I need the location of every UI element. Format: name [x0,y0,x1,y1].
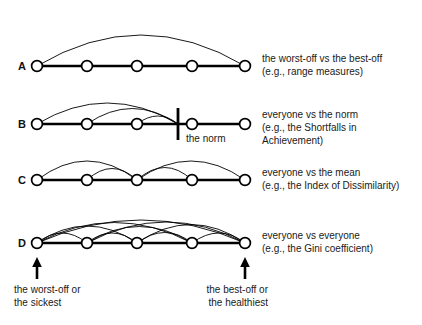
node-c-3-mean [132,175,143,186]
up-arrow-icon-left [32,257,42,267]
node-b-2 [82,119,93,130]
row-b: B the norm everyone vs the [18,103,358,146]
row-a-example-label: (e.g., range measures) [262,66,363,77]
arc-c-2-mean [87,169,137,181]
row-d-letter: D [18,237,26,249]
row-b-approach-label: everyone vs the norm [262,109,358,120]
node-b-3 [132,119,143,130]
row-a: A the worst-off vs the best-off (e.g., r… [18,35,382,77]
node-b-5 [240,119,251,130]
row-d-approach-label: everyone vs everyone [262,230,360,241]
arc-c-mean-4 [137,168,192,181]
row-c-example-label: (e.g., the Index of Dissimilarity) [262,180,399,191]
node-c-2 [82,175,93,186]
arc-d-3-4 [137,233,192,244]
node-c-4 [187,175,198,186]
diagram-canvas: A the worst-off vs the best-off (e.g., r… [0,0,422,325]
arc-d-1-2 [37,233,87,243]
row-d: D [18,220,373,254]
row-c: C everyone vs the mean (e.g., the Index [18,161,399,191]
up-arrow-icon-right [240,257,250,267]
node-d-5 [240,238,251,249]
inequality-measures-diagram: A the worst-off vs the best-off (e.g., r… [0,0,422,325]
node-a-2 [82,61,93,72]
node-d-3 [132,238,143,249]
row-c-letter: C [18,174,26,186]
node-b-4 [187,119,198,130]
right-endpoint-annotation: the best-off or the healthiest [206,257,268,308]
row-b-arcs [37,103,178,124]
row-b-example-line2: Achievement) [262,135,323,146]
row-b-example-line1: (e.g., the Shortfalls in [262,122,357,133]
node-c-5 [240,175,251,186]
node-b-1 [32,119,43,130]
left-endpoint-annotation: the worst-off or the sickest [14,257,81,308]
arc-d-2-3 [87,233,137,243]
norm-label: the norm [186,133,225,144]
row-c-approach-label: everyone vs the mean [262,167,360,178]
row-a-approach-label: the worst-off vs the best-off [262,53,382,64]
node-d-4 [187,238,198,249]
node-a-4 [187,61,198,72]
row-a-letter: A [18,60,26,72]
right-endpoint-line2: the healthiest [209,297,269,308]
row-d-example-label: (e.g., the Gini coefficient) [262,243,373,254]
arc-d-4-5 [192,233,245,243]
node-d-2 [82,238,93,249]
node-a-3 [132,61,143,72]
left-endpoint-line1: the worst-off or [14,284,81,295]
left-endpoint-line2: the sickest [14,297,61,308]
right-endpoint-line1: the best-off or [206,284,268,295]
node-d-1 [32,238,43,249]
row-b-letter: B [18,118,26,130]
node-c-1 [32,175,43,186]
node-a-1 [32,61,43,72]
node-a-5 [240,61,251,72]
